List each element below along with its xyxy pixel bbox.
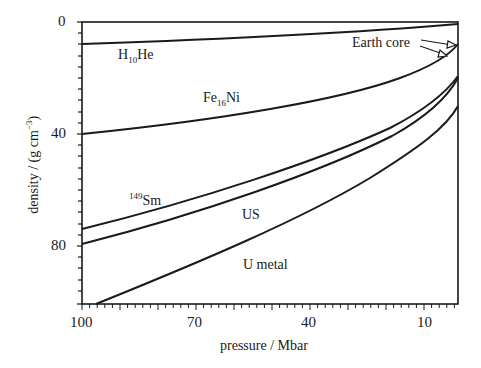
line-us <box>82 78 458 244</box>
label-h10he-tail: He <box>137 47 153 62</box>
label-fe16ni-sub: 16 <box>217 98 226 108</box>
y-axis-title: density / (g cm−3) <box>24 100 42 230</box>
label-h10he-main: H <box>118 47 128 62</box>
y-axis-title-text: density / (g cm <box>26 130 41 214</box>
label-sm-main: Sm <box>143 193 162 208</box>
x-tick-40: 40 <box>301 314 316 331</box>
x-axis-title: pressure / Mbar <box>220 338 308 354</box>
x-tick-10: 10 <box>417 314 432 331</box>
y-axis-title-end: ) <box>26 116 41 121</box>
y-tick-0: 0 <box>58 13 66 30</box>
label-h10he-sub: 10 <box>128 55 137 65</box>
label-umetal: U metal <box>243 257 288 273</box>
y-tick-80: 80 <box>51 237 66 254</box>
y-tick-40: 40 <box>51 125 66 142</box>
label-sm: 149Sm <box>129 191 161 209</box>
chart-plot <box>0 0 481 368</box>
earth-core-arrows <box>420 40 456 57</box>
x-ticks <box>82 304 454 310</box>
x-tick-70: 70 <box>187 314 202 331</box>
label-fe16ni-tail: Ni <box>226 90 240 105</box>
label-earth-core: Earth core <box>352 35 410 51</box>
label-h10he: H10He <box>118 47 153 65</box>
x-tick-100: 100 <box>70 314 93 331</box>
label-fe16ni-main: Fe <box>203 90 217 105</box>
y-axis-title-sup: −3 <box>24 121 34 131</box>
label-sm-sup: 149 <box>129 191 143 201</box>
label-fe16ni: Fe16Ni <box>203 90 240 108</box>
label-us: US <box>242 207 260 223</box>
